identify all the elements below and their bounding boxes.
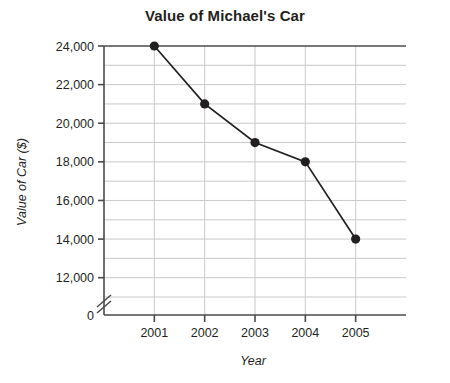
x-axis-tick-label: 2003 xyxy=(241,326,269,340)
data-point-marker xyxy=(200,99,209,108)
y-axis-tick-label: 16,000 xyxy=(56,194,94,208)
axis-ticks xyxy=(98,46,356,322)
x-axis-tick-label: 2002 xyxy=(191,326,219,340)
y-axis-tick-label: 24,000 xyxy=(56,40,94,54)
data-point-marker xyxy=(301,157,310,166)
y-axis-tick-label: 14,000 xyxy=(56,233,94,247)
x-axis-tick-label: 2004 xyxy=(291,326,319,340)
gridlines xyxy=(104,46,406,315)
y-axis-tick-label: 18,000 xyxy=(56,155,94,169)
y-axis-zero-label: 0 xyxy=(87,309,94,323)
y-axis-tick-label: 20,000 xyxy=(56,117,94,131)
y-axis-tick-label: 22,000 xyxy=(56,78,94,92)
x-axis-tick-label: 2001 xyxy=(140,326,168,340)
chart-container: Value of Michael's Car Value of Car ($) … xyxy=(0,0,450,383)
y-axis-tick-labels: 12,00014,00016,00018,00020,00022,00024,0… xyxy=(56,40,94,286)
x-axis-tick-labels: 20012002200320042005 xyxy=(140,326,369,340)
data-point-marker xyxy=(150,41,159,50)
y-axis-tick-label: 12,000 xyxy=(56,271,94,285)
chart-plot-area: 12,00014,00016,00018,00020,00022,00024,0… xyxy=(0,0,450,383)
data-point-marker xyxy=(250,138,259,147)
data-point-marker xyxy=(351,234,360,243)
x-axis-tick-label: 2005 xyxy=(342,326,370,340)
